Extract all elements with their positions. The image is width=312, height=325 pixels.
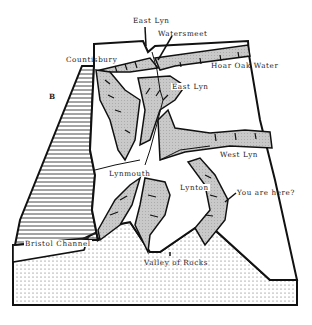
label-lynmouth: Lynmouth xyxy=(109,170,150,177)
label-you-are-here: You are here? xyxy=(237,189,295,196)
label-countisbury: Countisbury xyxy=(66,56,117,63)
label-lynton: Lynton xyxy=(179,184,210,191)
bristol-channel-area xyxy=(15,66,98,245)
panel-letter: B xyxy=(49,93,56,100)
label-hoar-oak-water: Hoar Oak Water xyxy=(211,62,278,69)
label-bristol-channel: Bristol Channel xyxy=(24,240,92,247)
label-east-lyn-mid: East Lyn xyxy=(171,83,210,90)
label-watersmeet: Watersmeet xyxy=(158,30,208,37)
label-valley-of-rocks: Valley of Rocks xyxy=(144,259,208,266)
label-east-lyn-top: East Lyn xyxy=(133,17,170,24)
block-diagram xyxy=(0,0,312,325)
label-west-lyn: West Lyn xyxy=(220,151,258,158)
